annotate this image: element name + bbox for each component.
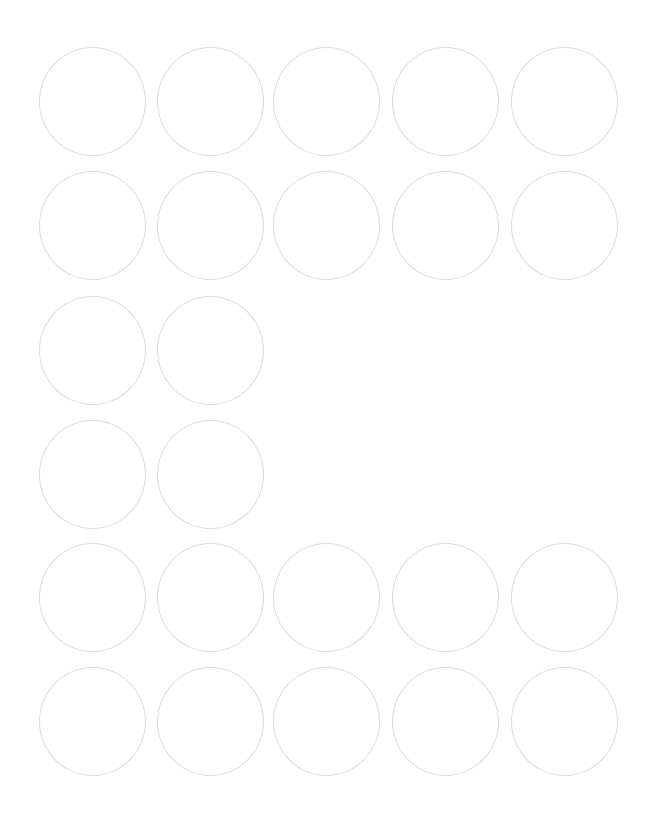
circle-label-r3-c1 <box>39 296 146 405</box>
circle-label-r6-c2 <box>157 667 264 776</box>
label-sheet <box>0 0 651 815</box>
circle-label-r2-c5 <box>511 171 618 280</box>
circle-label-r2-c1 <box>39 171 146 280</box>
circle-label-r1-c2 <box>157 47 264 156</box>
circle-label-r2-c4 <box>392 171 499 280</box>
circle-label-r3-c2 <box>157 296 264 405</box>
circle-label-r4-c1 <box>39 420 146 529</box>
circle-label-r4-c2 <box>157 420 264 529</box>
circle-label-r6-c4 <box>392 667 499 776</box>
circle-label-r2-c3 <box>273 171 380 280</box>
circle-label-r5-c5 <box>511 543 618 652</box>
circle-label-r5-c2 <box>157 543 264 652</box>
circle-label-r5-c4 <box>392 543 499 652</box>
circle-label-r5-c3 <box>273 543 380 652</box>
circle-label-r6-c5 <box>511 667 618 776</box>
circle-label-r5-c1 <box>39 543 146 652</box>
circle-label-r1-c4 <box>392 47 499 156</box>
circle-label-r6-c3 <box>273 667 380 776</box>
circle-label-r2-c2 <box>157 171 264 280</box>
circle-label-r6-c1 <box>39 667 146 776</box>
circle-label-r1-c3 <box>273 47 380 156</box>
circle-label-r1-c1 <box>39 47 146 156</box>
circle-label-r1-c5 <box>511 47 618 156</box>
